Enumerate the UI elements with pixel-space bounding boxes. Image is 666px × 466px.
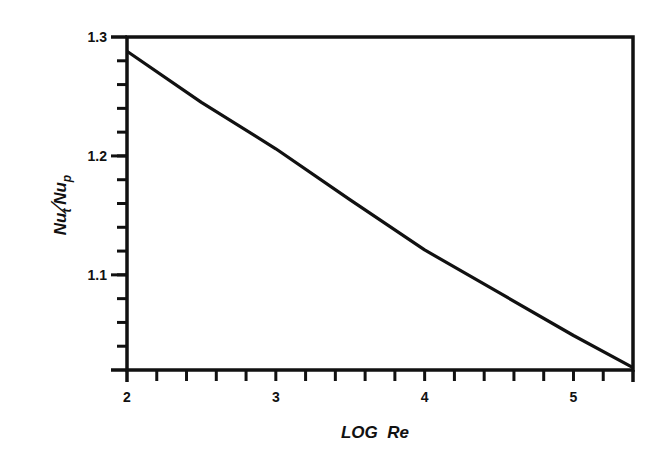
x-axis-title: LOG Re <box>341 423 409 442</box>
y-axis-ticks: 1.31.21.1 <box>88 29 127 346</box>
y-tick-label: 1.2 <box>88 148 108 164</box>
y-tick-label: 1.1 <box>88 267 108 283</box>
x-tick-label: 4 <box>421 389 429 405</box>
x-tick-label: 5 <box>570 389 578 405</box>
x-tick-label: 2 <box>123 389 131 405</box>
x-tick-label: 3 <box>272 389 280 405</box>
y-tick-label: 1.3 <box>88 29 108 45</box>
data-line <box>127 51 633 367</box>
svg-text:Nut⁄Nup: Nut⁄Nup <box>46 175 74 235</box>
y-axis-title: Nut⁄Nup <box>46 175 74 235</box>
plot-frame <box>111 37 633 382</box>
line-chart: 1.31.21.1 2345 LOG Re Nut⁄Nup <box>0 0 666 466</box>
x-axis-ticks: 2345 <box>123 370 603 405</box>
